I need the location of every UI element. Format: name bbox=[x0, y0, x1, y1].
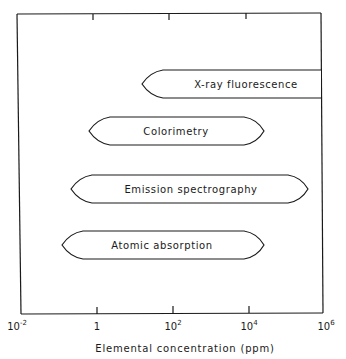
plot-frame bbox=[17, 13, 323, 314]
chart: X-ray fluorescence Colorimetry Emission … bbox=[0, 0, 346, 359]
x-axis-title: Elemental concentration (ppm) bbox=[95, 343, 274, 354]
bar-label: X-ray fluorescence bbox=[194, 79, 298, 90]
bar-label: Emission spectrography bbox=[124, 184, 257, 195]
bar-label: Atomic absorption bbox=[111, 240, 213, 251]
x-tick-label: 102 bbox=[164, 319, 181, 332]
x-tick-label: 10-2 bbox=[7, 319, 27, 332]
bar-label: Colorimetry bbox=[143, 126, 208, 137]
x-tick-label: 104 bbox=[240, 319, 258, 332]
right-axis-line bbox=[321, 13, 323, 313]
top-axis-line bbox=[17, 13, 321, 14]
left-axis-line bbox=[17, 14, 21, 314]
x-tick-label: 1 bbox=[94, 321, 100, 332]
x-tick-label: 106 bbox=[317, 319, 335, 332]
bottom-axis-line bbox=[21, 313, 323, 314]
